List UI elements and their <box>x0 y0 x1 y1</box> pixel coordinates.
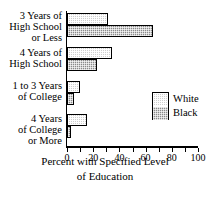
bar-black-2 <box>67 93 74 105</box>
legend-swatch-white <box>153 93 168 106</box>
category-label-3: 4 Years of College or More <box>18 113 62 146</box>
x-axis-title-line-1: Percent with Specified Level <box>0 154 210 169</box>
legend: White Black <box>152 92 208 122</box>
x-axis-title-line-2: of Education <box>0 169 210 184</box>
x-tick-90 <box>185 148 186 152</box>
category-axis-labels: 3 Years of High School or Less 4 Years o… <box>0 10 64 146</box>
category-label-0-line-0: 3 Years of <box>9 10 62 21</box>
bar-white-2 <box>67 81 80 93</box>
bar-white-0 <box>67 13 108 25</box>
bar-chart: 3 Years of High School or Less 4 Years o… <box>0 0 210 200</box>
category-label-0: 3 Years of High School or Less <box>9 10 62 43</box>
category-label-2-line-0: 1 to 3 Years <box>12 80 62 91</box>
bar-white-1 <box>67 47 112 59</box>
bar-black-1 <box>67 59 97 71</box>
category-label-0-line-2: or Less <box>9 32 62 43</box>
category-label-3-line-0: 4 Years <box>18 113 62 124</box>
category-label-1-line-0: 4 Years of <box>9 47 62 58</box>
bar-black-0 <box>67 25 153 37</box>
legend-label-black: Black <box>173 106 198 119</box>
bar-black-3 <box>67 126 71 138</box>
x-axis-title: Percent with Specified Level of Educatio… <box>0 154 210 184</box>
category-label-2: 1 to 3 Years of College <box>12 80 62 102</box>
x-tick-30 <box>106 148 107 152</box>
plot-area: 020406080100 <box>67 11 198 146</box>
legend-label-white: White <box>173 92 199 105</box>
category-label-2-line-1: of College <box>12 91 62 102</box>
x-tick-70 <box>159 148 160 152</box>
bar-white-3 <box>67 114 87 126</box>
category-label-1-line-1: High School <box>9 58 62 69</box>
category-label-0-line-1: High School <box>9 21 62 32</box>
category-label-1: 4 Years of High School <box>9 47 62 69</box>
legend-swatch-box <box>152 92 169 120</box>
x-tick-50 <box>133 148 134 152</box>
category-label-3-line-1: of College <box>18 124 62 135</box>
legend-swatch-black <box>153 107 168 120</box>
category-label-3-line-2: or More <box>18 135 62 146</box>
x-tick-10 <box>80 148 81 152</box>
